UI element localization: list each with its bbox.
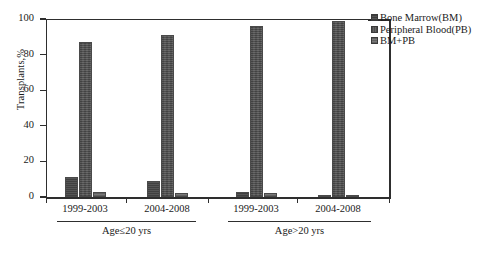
bars-layer [46, 19, 391, 197]
x-axis-label: 1999-2003 [45, 203, 125, 214]
x-axis-label: 2004-2008 [298, 203, 378, 214]
bar-bmpb [264, 193, 277, 197]
legend: Bone Marrow(BM)Peripheral Blood(PB)BM+PB [371, 12, 490, 47]
x-axis-label: 1999-2003 [216, 203, 296, 214]
group-label: Age>20 yrs [240, 225, 360, 236]
bar-bm [147, 181, 160, 197]
bar-bm [236, 192, 249, 197]
legend-item-label: Bone Marrow(BM) [380, 12, 462, 23]
x-axis-tick [208, 198, 209, 203]
y-axis-tick-label: 80 [0, 49, 34, 59]
x-axis-tick [389, 198, 390, 203]
legend-item-label: BM+PB [380, 35, 415, 46]
x-axis-line [46, 197, 391, 199]
bar-bmpb [346, 195, 359, 197]
x-axis-label: 2004-2008 [127, 203, 207, 214]
bar-chart-figure: Transplants,% 020406080100 1999-20032004… [0, 0, 490, 253]
bar-pb [250, 26, 263, 197]
legend-item-label: Peripheral Blood(PB) [380, 24, 471, 35]
y-axis-tick-label: 60 [0, 84, 34, 94]
bar-bmpb [93, 192, 106, 197]
y-axis-tick-label: 100 [0, 13, 34, 23]
legend-item: Bone Marrow(BM) [371, 12, 490, 23]
bar-bm [318, 195, 331, 197]
bar-pb [161, 35, 174, 197]
bar-pb [332, 21, 345, 197]
y-axis-tick-label: 20 [0, 155, 34, 165]
group-label: Age≤20 yrs [67, 225, 187, 236]
group-rule [57, 221, 196, 222]
bar-bmpb [175, 193, 188, 197]
legend-swatch-icon [371, 37, 378, 44]
bar-pb [79, 42, 92, 197]
legend-item: BM+PB [371, 35, 490, 46]
legend-swatch-icon [371, 14, 378, 21]
legend-item: Peripheral Blood(PB) [371, 24, 490, 35]
y-axis-tick-label: 0 [0, 191, 34, 201]
legend-swatch-icon [371, 26, 378, 33]
bar-bm [65, 177, 78, 197]
y-axis-tick-label: 40 [0, 120, 34, 130]
group-rule [228, 221, 371, 222]
